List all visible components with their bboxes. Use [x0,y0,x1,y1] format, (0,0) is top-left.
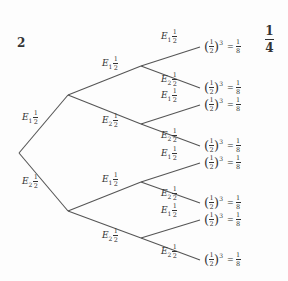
branch-label: E212 [161,128,177,143]
event-subscript: 1 [168,154,172,160]
numerator: 1 [114,56,118,63]
event-letter: E [161,149,168,158]
numerator: 1 [236,252,240,259]
numerator: 1 [210,97,214,104]
denominator: 2 [114,237,118,244]
branch-probability: 12 [113,228,118,243]
branch-label: E112 [161,203,177,218]
denominator: 2 [210,164,214,171]
denominator: 2 [210,261,214,268]
numerator: 1 [114,113,118,120]
leaf-probability: (12)3=18 [204,195,241,210]
exponent: 3 [219,196,223,202]
event-subscript: 2 [168,136,172,142]
branch-probability: 12 [172,244,177,259]
branch-label: E112 [22,110,38,125]
tree-diagram: 2 1 4 E112E212E112E212E112E212E112E212E1… [0,0,288,281]
leaf-probability: (12)3=18 [204,39,241,54]
branch-probability: 12 [172,203,177,218]
event-letter: E [161,206,168,215]
numerator: 1 [173,244,177,251]
event-letter: E [102,116,109,125]
event-subscript: 1 [168,211,172,217]
numerator: 1 [114,228,118,235]
exponent: 3 [219,139,223,145]
numerator: 1 [236,138,240,145]
numerator: 1 [173,186,177,193]
exponent: 3 [219,40,223,46]
branch-probability: 12 [113,56,118,71]
event-subscript: 2 [109,236,113,242]
denominator: 8 [236,48,240,55]
numerator: 1 [210,39,214,46]
denominator: 2 [34,183,38,190]
event-letter: E [161,91,168,100]
denominator: 2 [210,89,214,96]
result-fraction: 18 [236,138,241,153]
branch-label: E112 [161,88,177,103]
branch-probability: 12 [172,128,177,143]
equals-sign: = [227,199,234,207]
numerator: 1 [173,88,177,95]
exponent: 3 [219,98,223,104]
numerator: 1 [34,110,38,117]
numerator: 1 [236,39,240,46]
equals-sign: = [227,159,234,167]
leaf-probability: (12)3=18 [204,138,241,153]
denominator: 2 [173,155,177,162]
event-letter: E [161,131,168,140]
denominator: 2 [210,204,214,211]
result-fraction: 18 [236,39,241,54]
numerator: 1 [236,195,240,202]
denominator: 8 [236,164,240,171]
leaf-probability: (12)3=18 [204,155,241,170]
branch-label: E212 [161,186,177,201]
event-letter: E [161,75,168,84]
denominator: 2 [173,212,177,219]
event-letter: E [22,113,29,122]
denominator: 2 [210,147,214,154]
denominator: 2 [173,195,177,202]
numerator: 1 [210,195,214,202]
event-letter: E [102,59,109,68]
numerator: 1 [173,128,177,135]
denominator: 2 [210,221,214,228]
denominator: 8 [236,147,240,154]
exponent: 3 [219,81,223,87]
branch-label: E112 [102,172,118,187]
denominator: 8 [236,204,240,211]
denominator: 2 [173,253,177,260]
numerator: 1 [34,174,38,181]
denominator: 8 [236,106,240,113]
numerator: 1 [173,72,177,79]
event-letter: E [161,247,168,256]
event-subscript: 1 [109,64,113,70]
denominator: 2 [173,137,177,144]
numerator: 1 [236,80,240,87]
branch-line [141,163,200,182]
event-subscript: 2 [29,182,33,188]
event-subscript: 1 [29,118,33,124]
branch-probability: 12 [172,186,177,201]
event-letter: E [22,177,29,186]
branch-label: E212 [102,113,118,128]
equals-sign: = [227,43,234,51]
branch-line [141,47,200,66]
numerator: 1 [210,80,214,87]
equals-sign: = [227,216,234,224]
branch-label: E112 [102,56,118,71]
numerator: 1 [173,203,177,210]
denominator: 8 [236,89,240,96]
numerator: 1 [210,138,214,145]
branch-probability: 12 [172,29,177,44]
event-letter: E [102,175,109,184]
branch-label: E212 [22,174,38,189]
numerator: 1 [210,155,214,162]
branch-probability: 12 [113,113,118,128]
result-fraction: 18 [236,155,241,170]
denominator: 2 [210,106,214,113]
event-subscript: 2 [109,121,113,127]
result-fraction: 18 [236,252,241,267]
denominator: 8 [236,221,240,228]
equals-sign: = [227,84,234,92]
